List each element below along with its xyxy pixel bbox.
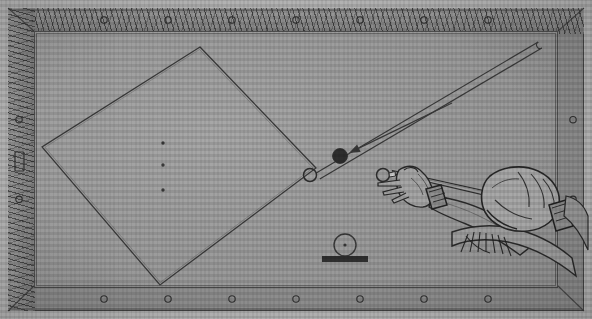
illustration-canvas — [0, 0, 592, 319]
bridge-finger-1 — [378, 180, 401, 186]
cue-tip — [389, 172, 396, 178]
grip-hand — [482, 167, 560, 231]
bridge-hand — [378, 166, 433, 207]
player-layer — [0, 0, 592, 319]
